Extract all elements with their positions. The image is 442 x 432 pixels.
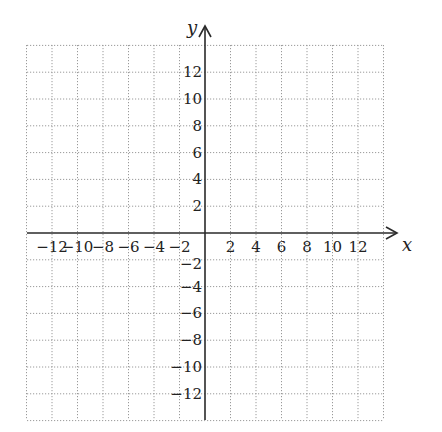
y-tick-label: 8 [192,117,202,135]
x-axis-label: x [402,234,412,255]
x-tick-label: 6 [277,238,287,256]
y-axis-label: y [186,17,198,38]
y-tick-label: −12 [170,385,202,403]
y-tick-label: −2 [180,255,202,273]
x-tick-label: −4 [143,238,165,256]
y-tick-label: −6 [180,304,202,322]
x-tick-labels: −12−10−8−6−4−224681012 [36,238,367,256]
x-tick-label: −8 [92,238,114,256]
y-tick-label: 6 [192,144,202,162]
x-tick-label: 2 [226,238,236,256]
x-tick-label: 12 [348,238,367,256]
y-tick-label: 12 [183,63,202,81]
x-tick-label: 10 [323,238,342,256]
y-tick-label: −8 [180,331,202,349]
axes [27,26,397,420]
y-tick-label: 4 [192,170,202,188]
x-tick-label: 4 [251,238,261,256]
y-tick-label: 2 [192,197,202,215]
x-tick-label: −10 [62,238,94,256]
coordinate-plane: −12−10−8−6−4−224681012 12108642−2−4−6−8−… [0,0,442,432]
x-tick-label: −6 [117,238,139,256]
y-tick-label: −4 [180,278,202,296]
y-tick-label: 10 [183,90,202,108]
x-tick-label: 8 [302,238,312,256]
x-tick-label: −2 [168,238,190,256]
y-tick-label: −10 [170,358,202,376]
